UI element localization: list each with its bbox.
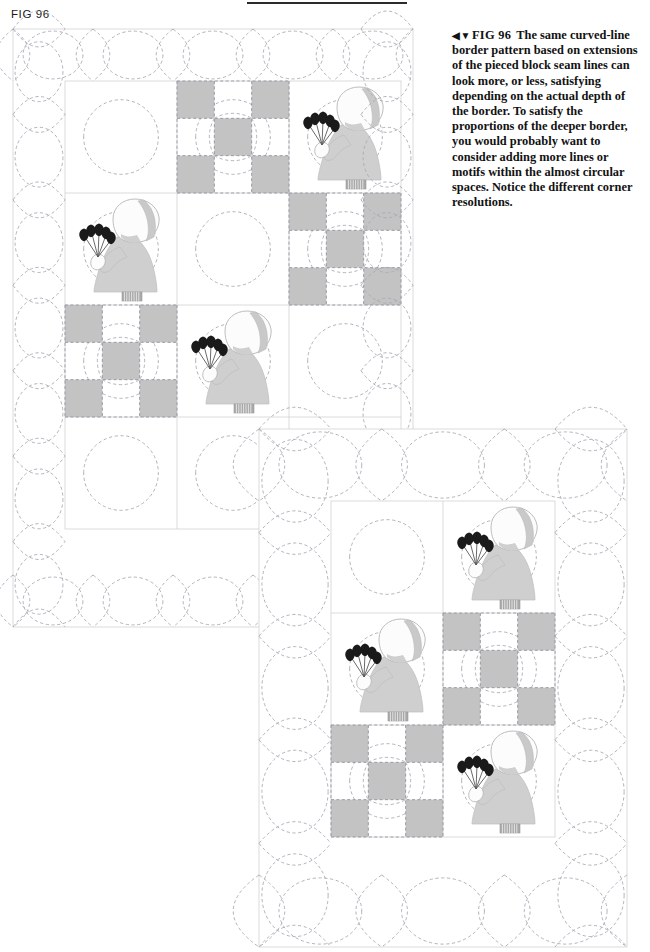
shaded-patch [102, 342, 139, 379]
shaded-patch [331, 800, 368, 837]
shaded-patch [140, 305, 177, 342]
figure-label: FIG 96 [11, 8, 50, 20]
shaded-patch [443, 613, 480, 650]
caption-direction-marks: ◀▼ [452, 30, 471, 41]
shoe-stripes [502, 824, 516, 833]
border-arc [0, 575, 13, 627]
shaded-patch [214, 118, 251, 155]
shaded-patch [289, 193, 326, 230]
deep-border-quilt [258, 428, 628, 948]
shaded-patch [518, 688, 555, 725]
shaded-patch [480, 650, 517, 687]
shaded-patch [252, 156, 289, 193]
shaded-patch [518, 613, 555, 650]
border-arc [0, 29, 13, 81]
shaded-patch [406, 725, 443, 762]
shaded-patch [443, 688, 480, 725]
quilt-diagram-deep-border [258, 428, 628, 948]
shaded-patch [289, 268, 326, 305]
shaded-patch [368, 762, 405, 799]
shaded-patch [406, 800, 443, 837]
caption-text: The same curved-line border pattern base… [452, 28, 638, 209]
shoe-stripes [502, 600, 516, 609]
shaded-patch [331, 725, 368, 762]
shaded-patch [326, 230, 363, 267]
shoe-stripes [236, 404, 250, 413]
shaded-patch [252, 81, 289, 118]
shaded-patch [140, 380, 177, 417]
shaded-patch [177, 156, 214, 193]
shoe-stripes [124, 292, 138, 301]
figure-caption: ◀▼FIG 96The same curved-line border patt… [452, 28, 642, 210]
shaded-patch [177, 81, 214, 118]
border-arc [361, 11, 413, 29]
shoe-stripes [390, 712, 404, 721]
border-arc [233, 875, 259, 947]
shoe-stripes [348, 180, 362, 189]
shaded-patch [65, 305, 102, 342]
shaded-patch [364, 193, 401, 230]
shaded-patch [364, 268, 401, 305]
border-arc [555, 407, 627, 429]
top-rule [247, 2, 407, 4]
caption-figure-ref: FIG 96 [472, 28, 511, 42]
shaded-patch [65, 380, 102, 417]
